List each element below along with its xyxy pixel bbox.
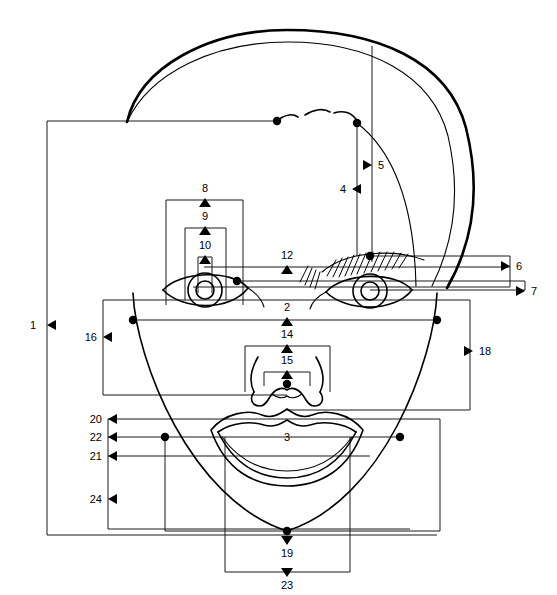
arrow-12 bbox=[281, 265, 293, 274]
arrow-18 bbox=[464, 346, 473, 356]
facial-measurement-diagram: 1 2 3 4 5 6 7 8 9 10 12 14 15 16 18 19 2… bbox=[0, 0, 557, 595]
measure-line-7 bbox=[237, 281, 525, 290]
dot-inner-canthus bbox=[233, 277, 241, 285]
arrow-24 bbox=[108, 494, 117, 504]
dot-mouth-corner-right bbox=[396, 433, 404, 441]
label-22: 22 bbox=[90, 431, 102, 443]
label-1: 1 bbox=[30, 319, 36, 331]
label-12: 12 bbox=[281, 249, 293, 261]
jawline-left bbox=[133, 293, 287, 531]
arrow-8 bbox=[199, 198, 211, 207]
eye-left bbox=[163, 273, 264, 307]
dot-nasion bbox=[366, 252, 374, 260]
label-20: 20 bbox=[90, 413, 102, 425]
arrow-5 bbox=[363, 160, 372, 170]
arrow-6 bbox=[501, 261, 510, 271]
dot-glabella-left bbox=[273, 117, 281, 125]
arrow-14 bbox=[281, 344, 293, 353]
arrow-16 bbox=[103, 332, 112, 342]
label-5: 5 bbox=[378, 159, 384, 171]
label-8: 8 bbox=[202, 182, 208, 194]
eye-right bbox=[310, 274, 412, 309]
dot-mouth-corner-left bbox=[161, 433, 169, 441]
label-21: 21 bbox=[90, 450, 102, 462]
temple-contour bbox=[357, 123, 416, 286]
arrow-9 bbox=[199, 226, 211, 235]
label-9: 9 bbox=[202, 210, 208, 222]
dot-gnathion bbox=[283, 527, 291, 535]
dot-subnasale bbox=[283, 380, 291, 388]
eyebrow-left bbox=[277, 110, 357, 121]
arrow-20 bbox=[108, 414, 117, 424]
label-6: 6 bbox=[516, 260, 522, 272]
mouth bbox=[211, 409, 363, 486]
label-18: 18 bbox=[479, 345, 491, 357]
arrowheads bbox=[47, 160, 525, 577]
arrow-22 bbox=[108, 432, 117, 442]
label-24: 24 bbox=[90, 493, 102, 505]
label-19: 19 bbox=[281, 547, 293, 559]
arrow-7 bbox=[516, 286, 525, 296]
dot-glabella-right bbox=[353, 119, 361, 127]
label-16: 16 bbox=[85, 331, 97, 343]
label-10: 10 bbox=[199, 239, 211, 251]
measure-line-18 bbox=[287, 300, 470, 410]
dot-cheek-left bbox=[129, 316, 137, 324]
arrow-1 bbox=[47, 320, 56, 330]
label-2: 2 bbox=[284, 301, 290, 313]
label-3: 3 bbox=[284, 431, 290, 443]
arrow-19 bbox=[281, 536, 293, 545]
label-15: 15 bbox=[281, 354, 293, 366]
measurement-labels: 1 2 3 4 5 6 7 8 9 10 12 14 15 16 18 19 2… bbox=[30, 159, 537, 591]
label-23: 23 bbox=[281, 579, 293, 591]
arrow-15 bbox=[281, 370, 293, 379]
diagram-canvas: 1 2 3 4 5 6 7 8 9 10 12 14 15 16 18 19 2… bbox=[0, 0, 557, 595]
arrow-10 bbox=[199, 255, 211, 264]
label-7: 7 bbox=[531, 285, 537, 297]
label-14: 14 bbox=[281, 328, 293, 340]
dot-cheek-right bbox=[433, 316, 441, 324]
arrow-21 bbox=[108, 451, 117, 461]
label-4: 4 bbox=[340, 183, 346, 195]
arrow-2 bbox=[281, 317, 293, 326]
jawline-right bbox=[287, 293, 437, 531]
